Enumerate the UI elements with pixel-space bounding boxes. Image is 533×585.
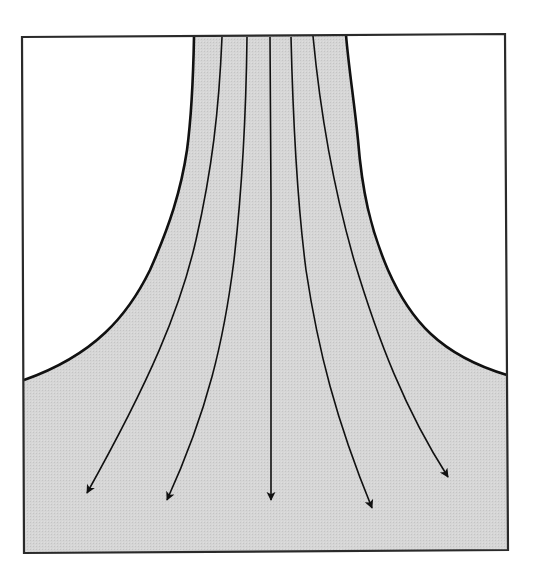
diagram-stage: Diverging flow streamlines from a narrow… — [0, 0, 533, 585]
flow-diagram — [0, 0, 533, 585]
